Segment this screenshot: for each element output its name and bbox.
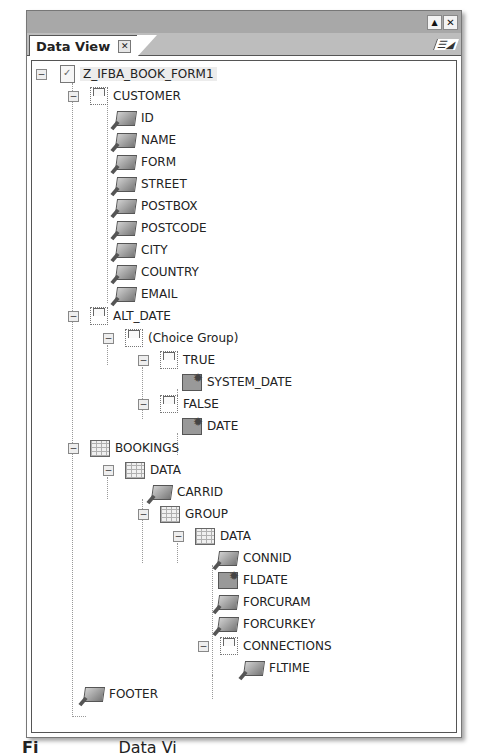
tree-item-field[interactable]: ID [116, 107, 154, 129]
figure-caption: FiData Vi [22, 738, 177, 754]
structure-node-icon [90, 87, 108, 105]
tree-item-field[interactable]: CITY [116, 239, 168, 261]
tree-item-label: BOOKINGS [115, 441, 179, 455]
collapse-icon[interactable]: − [173, 531, 184, 542]
date-field-icon [218, 572, 238, 589]
tree-item-field[interactable]: EMAIL [116, 283, 177, 305]
caption-prefix: Fi [22, 738, 38, 754]
close-window-button[interactable]: ✕ [443, 15, 458, 30]
tree-item-field[interactable]: POSTBOX [116, 195, 198, 217]
collapse-icon[interactable]: − [36, 69, 47, 80]
text-field-icon [115, 111, 137, 126]
tree-item-root[interactable]: − Z_IFBA_BOOK_FORM1 [36, 63, 217, 85]
tree-item-group-data[interactable]: − DATA [173, 525, 251, 547]
data-tree-panel: − Z_IFBA_BOOK_FORM1 − CUSTOMER ID NAME F… [31, 60, 457, 733]
tab-data-view[interactable]: Data View ✕ [29, 35, 137, 56]
table-row-icon [125, 462, 145, 479]
tree-item-alt-date[interactable]: − ALT_DATE [68, 305, 171, 327]
collapse-icon[interactable]: − [138, 509, 149, 520]
title-bar: ▲ ✕ [27, 11, 461, 33]
tree-item-field[interactable]: STREET [116, 173, 187, 195]
text-field-icon [151, 485, 173, 500]
tree-item-bookings[interactable]: − BOOKINGS [68, 437, 179, 459]
numeric-field-icon [243, 661, 265, 676]
tree-line [72, 83, 73, 715]
tree-item-true[interactable]: − TRUE [138, 349, 215, 371]
date-field-icon [182, 418, 202, 435]
tree-item-label: ID [141, 111, 154, 125]
close-tab-icon[interactable]: ✕ [118, 40, 131, 53]
tree-item-label: EMAIL [141, 287, 177, 301]
caption-suffix: Data Vi [118, 738, 176, 754]
structure-node-icon [160, 351, 178, 369]
tree-item-label: TRUE [183, 353, 215, 367]
tree-item-label: SYSTEM_DATE [207, 375, 292, 389]
choice-group-icon [125, 329, 143, 347]
structure-node-icon [160, 395, 178, 413]
collapse-icon[interactable]: − [138, 355, 149, 366]
tree-item-system-date[interactable]: SYSTEM_DATE [182, 371, 292, 393]
tree-item-false[interactable]: − FALSE [138, 393, 219, 415]
tree-item-customer[interactable]: − CUSTOMER [68, 85, 181, 107]
tree-item-choice-group[interactable]: − (Choice Group) [103, 327, 238, 349]
tab-bar: Data View ✕ ☰◢ [27, 33, 461, 56]
text-field-icon [115, 221, 137, 236]
tree-item-label: FORCURKEY [243, 617, 315, 631]
tree-item-bookings-data[interactable]: − DATA [103, 459, 181, 481]
tab-label: Data View [36, 39, 110, 54]
form-doc-icon [60, 65, 75, 83]
tree-item-field[interactable]: POSTCODE [116, 217, 207, 239]
tree-item-label: GROUP [185, 507, 228, 521]
tree-item-forcuram[interactable]: FORCURAM [218, 591, 311, 613]
tree-item-label: CONNECTIONS [243, 639, 332, 653]
tree-item-label: COUNTRY [141, 265, 199, 279]
view-menu-icon[interactable]: ☰◢ [433, 39, 459, 50]
collapse-icon[interactable]: − [198, 641, 209, 652]
text-field-icon [217, 617, 239, 632]
tree-item-group[interactable]: − GROUP [138, 503, 228, 525]
tree-item-field[interactable]: NAME [116, 129, 176, 151]
tree-item-label: NAME [141, 133, 176, 147]
tree-line [72, 716, 86, 717]
tree-item-label: FLDATE [243, 573, 288, 587]
collapse-icon[interactable]: − [103, 465, 114, 476]
text-field-icon [115, 199, 137, 214]
data-view-window: ▲ ✕ Data View ✕ ☰◢ − [26, 10, 462, 738]
tree-item-label: Z_IFBA_BOOK_FORM1 [80, 67, 217, 81]
tree-item-fldate[interactable]: FLDATE [218, 569, 288, 591]
tree-item-label: CUSTOMER [113, 89, 181, 103]
text-field-icon [115, 133, 137, 148]
structure-node-icon [90, 307, 108, 325]
text-field-icon [115, 265, 137, 280]
tree-item-label: FORM [141, 155, 176, 169]
table-row-icon [195, 528, 215, 545]
text-field-icon [115, 287, 137, 302]
text-field-icon [83, 687, 105, 702]
tree-item-carrid[interactable]: CARRID [152, 481, 223, 503]
collapse-icon[interactable]: − [68, 311, 79, 322]
tree-item-connections[interactable]: − CONNECTIONS [198, 635, 332, 657]
collapse-icon[interactable]: − [68, 91, 79, 102]
collapse-icon[interactable]: − [103, 333, 114, 344]
tree-line [212, 675, 213, 699]
collapse-icon[interactable]: − [138, 399, 149, 410]
text-field-icon [115, 155, 137, 170]
tree-item-label: ALT_DATE [113, 309, 171, 323]
structure-node-icon [220, 637, 238, 655]
tree-item-label: DATE [207, 419, 238, 433]
tree-item-fltime[interactable]: FLTIME [244, 657, 310, 679]
tree-item-date[interactable]: DATE [182, 415, 238, 437]
tree-item-connid[interactable]: CONNID [218, 547, 292, 569]
tree-item-label: STREET [141, 177, 187, 191]
maximize-button[interactable]: ▲ [427, 15, 442, 30]
tree-item-label: FORCURAM [243, 595, 311, 609]
tree-item-label: DATA [150, 463, 181, 477]
tree-item-forcurkey[interactable]: FORCURKEY [218, 613, 315, 635]
collapse-icon[interactable]: − [68, 443, 79, 454]
tree-item-footer[interactable]: FOOTER [84, 683, 158, 705]
text-field-icon [115, 243, 137, 258]
tree-item-label: FALSE [183, 397, 219, 411]
tree-item-field[interactable]: COUNTRY [116, 261, 199, 283]
tree-item-label: (Choice Group) [148, 331, 238, 345]
tree-item-field[interactable]: FORM [116, 151, 176, 173]
